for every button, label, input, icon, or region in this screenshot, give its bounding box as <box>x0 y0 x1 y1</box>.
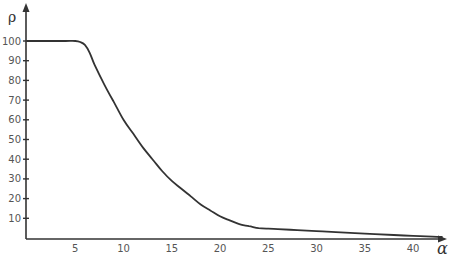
y-tick-label: 60 <box>8 114 21 125</box>
x-tick-label: 10 <box>117 243 130 254</box>
y-tick-label: 40 <box>8 154 21 165</box>
x-tick-label: 20 <box>214 243 227 254</box>
x-tick-label: 40 <box>407 243 420 254</box>
y-tick-label: 80 <box>8 75 21 86</box>
y-tick-label: 100 <box>2 36 21 47</box>
y-axis: ρ 102030405060708090100 <box>2 3 30 239</box>
x-tick-label: 5 <box>72 243 78 254</box>
x-tick-label: 15 <box>165 243 178 254</box>
y-tick-label: 50 <box>8 134 21 145</box>
y-tick-label: 10 <box>8 213 21 224</box>
rho-alpha-curve <box>27 41 442 237</box>
x-axis: α 510152025303540 <box>26 236 448 258</box>
y-axis-arrow-icon <box>23 3 30 12</box>
x-axis-label: α <box>437 239 448 258</box>
y-tick-label: 90 <box>8 55 21 66</box>
plot-area <box>27 41 442 237</box>
y-tick-label: 70 <box>8 95 21 106</box>
x-tick-label: 30 <box>310 243 323 254</box>
line-chart: ρ 102030405060708090100 α 51015202530354… <box>0 0 456 258</box>
y-axis-label: ρ <box>8 9 16 25</box>
x-tick-label: 35 <box>358 243 371 254</box>
x-tick-label: 25 <box>262 243 275 254</box>
y-tick-label: 20 <box>8 193 21 204</box>
y-tick-label: 30 <box>8 173 21 184</box>
